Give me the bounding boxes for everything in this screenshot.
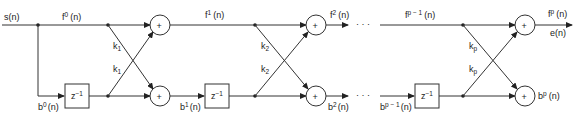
input-signal: s(n) bbox=[2, 12, 108, 96]
delay-block-p: z−1 bbox=[415, 84, 439, 108]
output-error-label: e(n) bbox=[550, 28, 566, 38]
signal-f2-label: f2(n) bbox=[330, 9, 349, 20]
svg-text:+: + bbox=[522, 21, 527, 31]
svg-text:f0(n): f0(n) bbox=[62, 11, 81, 22]
svg-text:+: + bbox=[313, 21, 318, 31]
stage1-coef-bottom: k1 bbox=[113, 64, 122, 75]
top-ellipsis: · · · bbox=[356, 19, 370, 29]
signal-fpm1-label: fp − 1(n) bbox=[405, 9, 435, 20]
delay-block-1: z−1 bbox=[65, 84, 89, 108]
bottom-ellipsis: · · · bbox=[356, 90, 370, 100]
output-bp-label: bp(n) bbox=[538, 90, 560, 101]
stage2-coef-bottom: k2 bbox=[261, 64, 270, 75]
signal-f1-label: f1(n) bbox=[205, 9, 224, 20]
stagep-coef-top: kp bbox=[469, 41, 478, 53]
stagep-coef-bottom: kp bbox=[469, 64, 478, 76]
svg-text:+: + bbox=[157, 92, 162, 102]
stage1-bottom-adder: + bbox=[150, 86, 170, 106]
delay-block-2: z−1 bbox=[205, 84, 229, 108]
signal-bpm1-label: bp − 1(n) bbox=[380, 101, 412, 112]
stagep-bottom-adder: + bbox=[515, 86, 535, 106]
stage2-coef-top: k2 bbox=[261, 41, 270, 52]
signal-b0-label: b0(n) bbox=[38, 101, 59, 112]
input-label: s(n) bbox=[4, 12, 20, 22]
signal-f0-label: f0(n) bbox=[62, 11, 81, 22]
svg-text:b0(n): b0(n) bbox=[38, 101, 59, 112]
signal-b1-label: b1(n) bbox=[180, 101, 201, 112]
svg-text:+: + bbox=[522, 92, 527, 102]
stage2-top-adder: + bbox=[306, 15, 326, 35]
stage2-bottom-adder: + bbox=[306, 86, 326, 106]
lattice-filter-diagram: s(n) f0(n) b0(n) z−1 k1 k1 + + f1(n) b1(… bbox=[0, 0, 580, 116]
stagep-top-adder: + bbox=[515, 15, 535, 35]
output-fp-label: fp(n) bbox=[548, 8, 567, 19]
signal-b2-label: b2(n) bbox=[328, 101, 349, 112]
svg-text:+: + bbox=[157, 21, 162, 31]
stage1-top-adder: + bbox=[150, 15, 170, 35]
svg-text:+: + bbox=[313, 92, 318, 102]
